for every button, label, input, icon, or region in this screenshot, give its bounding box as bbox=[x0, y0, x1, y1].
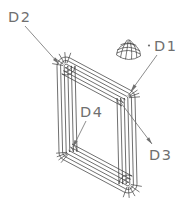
wireframe-drawing: D2 D1 D4 D3 bbox=[0, 0, 185, 211]
leader-lines bbox=[25, 26, 157, 147]
label-d3: D3 bbox=[149, 147, 172, 163]
frame-outline bbox=[64, 64, 130, 186]
dome-wireframe bbox=[117, 39, 141, 59]
arrowhead-d1 bbox=[131, 84, 137, 91]
leader-line-d3 bbox=[121, 103, 152, 144]
label-d1-dot bbox=[148, 44, 150, 46]
hatch-line bbox=[56, 152, 67, 153]
frame-wireframe bbox=[57, 57, 137, 193]
frame-outline-inner bbox=[62, 66, 132, 184]
frame-outline bbox=[64, 66, 131, 184]
hatch-line bbox=[65, 52, 66, 63]
leader-line-d2 bbox=[25, 26, 59, 64]
dome-mesh-line bbox=[130, 40, 137, 58]
label-d4: D4 bbox=[80, 104, 103, 120]
frame-outline bbox=[65, 66, 129, 184]
hatch-line bbox=[129, 97, 140, 98]
technical-drawing-canvas: D2 D1 D4 D3 bbox=[0, 0, 185, 211]
label-d2: D2 bbox=[8, 9, 31, 25]
label-d1: D1 bbox=[154, 38, 177, 54]
dome-mesh-line bbox=[129, 40, 132, 60]
hatch-line bbox=[128, 187, 129, 198]
